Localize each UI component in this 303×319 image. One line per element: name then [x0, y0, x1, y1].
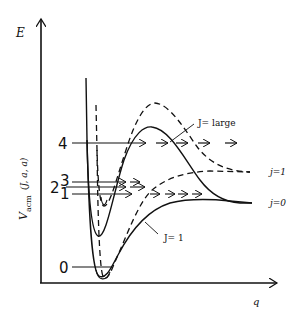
energy-level-4: 4 [58, 135, 237, 153]
leader-line-j-large [170, 124, 194, 142]
level-label-0: 0 [59, 259, 69, 277]
label-asymptote-j0: j=0 [268, 198, 286, 208]
potential-subscript: acm [24, 195, 33, 212]
level-label-4: 4 [58, 135, 68, 153]
level-label-1: 1 [60, 185, 70, 203]
label-j-1: J= 1 [163, 233, 184, 243]
leader-line-j-1 [145, 222, 158, 234]
y-axis-label: E [15, 26, 25, 40]
potential-arguments: (J, a, a) [19, 157, 29, 190]
energy-level-0: 0 [59, 259, 112, 277]
curve-solid-j-1 [87, 140, 252, 277]
label-j-large: J= large [197, 118, 236, 128]
potential-axis-label: V acm (J, a, a) [17, 157, 33, 220]
level-label-2: 2 [50, 179, 60, 197]
curve-solid-j-large [86, 78, 252, 236]
x-axis-label: q [253, 296, 259, 307]
label-asymptote-j1: j=1 [268, 167, 286, 177]
potential-energy-diagram: E q V acm (J, a, a) 4 3 2 1 [0, 0, 303, 319]
curve-small-dashed-u [101, 197, 107, 205]
